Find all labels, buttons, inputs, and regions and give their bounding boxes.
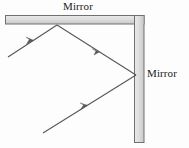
mirror-label-top: Mirror — [50, 1, 106, 12]
mirror-ray-diagram-figure: Mirror Mirror — [0, 0, 189, 148]
first-reflected-ray — [57, 25, 136, 75]
second-reflected-ray — [43, 75, 136, 133]
top-horizontal-mirror — [6, 16, 145, 25]
incident-ray — [8, 25, 57, 57]
right-vertical-mirror — [135, 16, 145, 143]
mirror-label-right: Mirror — [147, 68, 177, 79]
mirror-corner-joint — [135, 16, 144, 24]
